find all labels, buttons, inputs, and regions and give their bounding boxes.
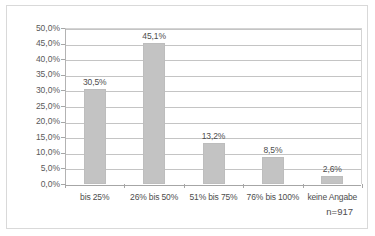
gridline <box>66 123 361 124</box>
y-axis-tick-label: 15,0% <box>7 132 60 142</box>
sample-size-annotation: n=917 <box>326 206 353 217</box>
bar[interactable] <box>143 43 165 184</box>
bar[interactable] <box>203 143 225 184</box>
x-axis-tick-mark <box>124 184 125 188</box>
y-axis-tick-label: 45,0% <box>7 38 60 48</box>
y-axis-tick-label: 40,0% <box>7 54 60 64</box>
y-axis-tick-label: 35,0% <box>7 69 60 79</box>
x-axis-category-label: bis 25% <box>65 192 124 202</box>
chart-frame: 0,0%5,0%10,0%15,0%20,0%25,0%30,0%35,0%40… <box>6 5 368 229</box>
y-axis-tick-label: 5,0% <box>7 163 60 173</box>
gridline <box>66 45 361 46</box>
bar-value-label: 8,5% <box>243 145 303 155</box>
x-axis-tick-mark <box>362 184 363 188</box>
y-axis-tick-label: 0,0% <box>7 179 60 189</box>
x-axis-category-label: 26% bis 50% <box>124 192 183 202</box>
x-axis-tick-mark <box>303 184 304 188</box>
x-axis-tick-mark <box>65 184 66 188</box>
y-axis-tick-label: 30,0% <box>7 85 60 95</box>
x-axis-category-label: keine Angabe <box>303 192 362 202</box>
bar[interactable] <box>262 157 284 184</box>
bar-value-label: 30,5% <box>65 77 125 87</box>
x-axis-category-label: 51% bis 75% <box>184 192 243 202</box>
gridline <box>66 91 361 92</box>
gridline <box>66 185 361 186</box>
bar[interactable] <box>321 176 343 184</box>
y-axis-tick-label: 20,0% <box>7 116 60 126</box>
gridline <box>66 60 361 61</box>
gridline <box>66 107 361 108</box>
bar-value-label: 13,2% <box>184 131 244 141</box>
bar[interactable] <box>84 89 106 184</box>
y-axis-tick-label: 50,0% <box>7 23 60 33</box>
y-axis-tick-label: 25,0% <box>7 101 60 111</box>
bar-value-label: 45,1% <box>124 31 184 41</box>
y-axis-tick-label: 10,0% <box>7 147 60 157</box>
x-axis-category-label: 76% bis 100% <box>243 192 302 202</box>
gridline <box>66 29 361 30</box>
x-axis-tick-mark <box>243 184 244 188</box>
bar-value-label: 2,6% <box>302 164 362 174</box>
x-axis-tick-mark <box>184 184 185 188</box>
